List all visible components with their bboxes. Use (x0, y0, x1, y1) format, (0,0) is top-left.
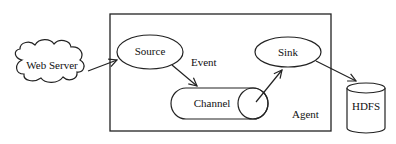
edge-sink-to-hdfs (316, 61, 356, 81)
hdfs-node: HDFS (347, 83, 385, 133)
flume-architecture-diagram: Agent Web Server Source Sink Channel HDF… (0, 0, 396, 144)
channel-label: Channel (194, 97, 231, 109)
agent-label: Agent (292, 108, 319, 120)
web-server-label: Web Server (26, 59, 78, 71)
sink-label: Sink (278, 46, 299, 58)
edge-channel-to-sink (256, 70, 282, 102)
sink-node: Sink (255, 37, 321, 67)
source-label: Source (135, 45, 166, 57)
web-server-node: Web Server (15, 40, 84, 83)
edge-webserver-to-source (88, 60, 117, 71)
source-node: Source (117, 35, 183, 69)
channel-node: Channel (171, 88, 268, 119)
edge-source-to-channel (172, 65, 197, 86)
event-label: Event (191, 56, 217, 68)
hdfs-label: HDFS (352, 100, 380, 112)
